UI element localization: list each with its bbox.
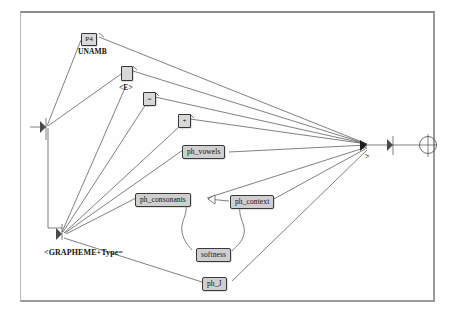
node-plus-box[interactable]: + bbox=[178, 114, 191, 128]
node-p4[interactable]: P4 bbox=[81, 33, 97, 46]
edge-phj-rightfan bbox=[232, 150, 367, 281]
node-softness-label: softness bbox=[201, 250, 226, 259]
node-ph-vowels[interactable]: ph_vowels bbox=[182, 145, 225, 159]
node-plus-subscript: ' bbox=[182, 128, 183, 133]
node-softness[interactable]: softness bbox=[196, 248, 231, 262]
edge-brace-left bbox=[182, 203, 192, 250]
node-ph-context[interactable]: ph_context bbox=[230, 195, 274, 209]
edge-left-to-bottom bbox=[48, 128, 62, 228]
edge-rightfan-arrowhead bbox=[360, 140, 367, 151]
node-eq-box-label: = bbox=[147, 96, 151, 103]
node-eq-subscript: ' bbox=[147, 105, 148, 110]
edge-phcontext-rightfan bbox=[272, 148, 367, 200]
edge-brace-right bbox=[232, 206, 244, 251]
edge-bottomfan-eqbox bbox=[63, 104, 146, 232]
node-grapheme-label: <GRAPHEME+Type= bbox=[44, 248, 123, 257]
node-e-label: <E> bbox=[119, 83, 133, 92]
edge-phconsonants-rightfan bbox=[207, 147, 367, 198]
node-e-box[interactable] bbox=[121, 66, 133, 81]
right-fan-caret: > bbox=[365, 152, 370, 161]
node-ph-context-label: ph_context bbox=[235, 197, 269, 206]
edge-ebox-leftfan bbox=[48, 74, 121, 126]
edge-p4-leftfan bbox=[47, 40, 81, 126]
edge-bottomfan-phvowels bbox=[65, 150, 183, 233]
edge-p4-rightfan bbox=[99, 37, 367, 144]
node-eq-box[interactable]: = bbox=[143, 92, 156, 106]
node-ph-consonants[interactable]: ph_consonants bbox=[135, 193, 191, 207]
node-p4-label: P4 bbox=[85, 36, 93, 43]
node-ph-vowels-label: ph_vowels bbox=[187, 147, 220, 156]
edge-left-arrowhead bbox=[40, 121, 46, 133]
edge-bottom-arrowhead bbox=[56, 228, 62, 240]
node-unamb-label: UNAMB bbox=[78, 47, 107, 56]
edge-plusbox-rightfan bbox=[190, 119, 367, 144]
edge-ebox-rightfan bbox=[133, 71, 367, 144]
node-plus-box-label: + bbox=[182, 118, 186, 125]
node-ph-j-label: ph_J bbox=[207, 279, 222, 288]
node-ph-j[interactable]: ph_J bbox=[202, 277, 227, 291]
diagram-root: P4 UNAMB <E> = ' + ' ph_vowels ph_conson… bbox=[0, 0, 458, 317]
edge-bottomfan-phj bbox=[64, 238, 202, 282]
edge-bottomfan-plusbox bbox=[64, 126, 180, 233]
edge-right-bar-arrowhead bbox=[387, 139, 393, 151]
nub-p4 bbox=[99, 33, 104, 37]
diagram-edges bbox=[0, 0, 458, 317]
nub-ebox bbox=[133, 66, 137, 70]
edge-bottomfan-phconsonants bbox=[66, 198, 136, 234]
edge-phvowels-rightfan bbox=[229, 145, 367, 152]
node-ph-consonants-label: ph_consonants bbox=[140, 195, 186, 204]
